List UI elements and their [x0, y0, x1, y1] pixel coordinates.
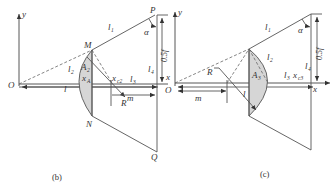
svg-text:2: 2	[270, 57, 273, 63]
point-P: P	[149, 5, 156, 15]
dashed-m-top-c	[227, 49, 249, 83]
alpha-label-c: α	[298, 25, 303, 35]
svg-text:1: 1	[111, 27, 114, 33]
l-label-b: l	[64, 84, 67, 94]
point-M: M	[83, 40, 92, 50]
xc2-label: x c2	[111, 73, 122, 84]
figure-b: y O l 0.5f α P M N	[8, 5, 169, 182]
alpha-arc-c	[302, 19, 310, 27]
svg-text:c3: c3	[298, 75, 303, 81]
y-axis-label-c: y	[177, 7, 182, 17]
line-bottom-c	[249, 116, 311, 150]
half-f-label-c: 0.5f	[315, 46, 324, 60]
segment-A3	[249, 49, 268, 116]
diagram-canvas: y O l 0.5f α P M N	[0, 0, 333, 187]
dashed-M-xc2	[92, 50, 112, 83]
svg-text:A: A	[251, 70, 258, 80]
svg-text:c2: c2	[117, 78, 122, 84]
R-label-c: R	[206, 67, 213, 77]
half-f-label-b: 0.5f	[160, 48, 169, 62]
svg-text:x: x	[81, 73, 86, 83]
l3-label-b: l 3	[130, 74, 136, 85]
svg-text:x: x	[292, 70, 297, 80]
point-Q: Q	[151, 152, 158, 162]
R-arrow-b	[87, 57, 125, 97]
svg-text:3: 3	[286, 75, 290, 81]
x-label-left-c: x	[165, 72, 170, 82]
point-N: N	[85, 119, 93, 129]
svg-text:2: 2	[71, 69, 74, 75]
svg-text:A: A	[86, 78, 91, 84]
l3-label-c: l 3	[284, 70, 290, 81]
x-axis-label-c: x	[312, 84, 317, 94]
svg-text:A: A	[80, 62, 87, 72]
point-R: R	[120, 98, 127, 108]
svg-text:3: 3	[257, 75, 261, 81]
l1-label-b: l 1	[108, 22, 114, 33]
l4-label-c: l 4	[305, 61, 311, 72]
svg-text:1: 1	[268, 27, 271, 33]
svg-text:4: 4	[308, 66, 311, 72]
svg-text:4: 4	[151, 69, 154, 75]
l2-label-c: l 2	[267, 52, 273, 63]
alpha-label-b: α	[144, 27, 149, 37]
svg-text:2: 2	[87, 67, 90, 73]
svg-text:3: 3	[132, 79, 136, 85]
alpha-arc-b	[149, 19, 156, 27]
origin-label-c: O	[165, 85, 172, 95]
l4-label-b: l 4	[148, 64, 154, 75]
xc3-label: x c3	[292, 70, 303, 81]
origin-label-b: O	[8, 80, 15, 90]
l1-label-c: l 1	[265, 22, 271, 33]
l2-label-b: l 2	[68, 64, 74, 75]
m-label-b: m	[127, 93, 134, 103]
svg-text:x: x	[111, 73, 116, 83]
y-axis-label-b: y	[21, 9, 26, 19]
figure-c: y x O x m R 0.5f α l 1	[165, 7, 330, 179]
m-label-c: m	[195, 93, 202, 103]
caption-c: (c)	[260, 169, 270, 179]
line-NQ	[92, 116, 157, 152]
caption-b: (b)	[52, 172, 62, 182]
